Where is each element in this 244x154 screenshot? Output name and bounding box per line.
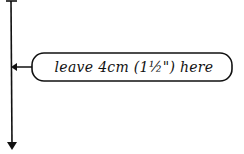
down-arrow-icon [7, 142, 17, 150]
vertical-measure-line [11, 1, 12, 146]
annotation-text: leave 4cm (1½") here [36, 56, 232, 78]
